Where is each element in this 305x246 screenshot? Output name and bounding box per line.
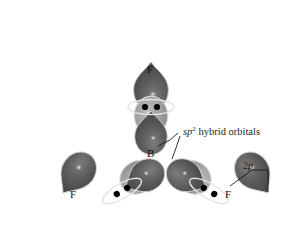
lobe-fluorine-right-outer [227,145,281,203]
callout-sp2-prefix: sp [183,126,192,137]
atom-label-boron: B [147,148,154,159]
electron-dot [210,190,218,198]
lobe-fluorine-left-outer [49,145,103,203]
electron-dot [113,190,121,198]
atom-label-fluorine-top: F [147,64,153,75]
electron-dot [142,104,148,110]
callout-sp2-suffix: hybrid orbitals [196,126,260,137]
atom-label-fluorine-right: F [225,189,231,200]
orbital-canvas [0,0,305,246]
orbital-diagram-figure: F B F F sp2 hybrid orbitals 2p [0,0,305,246]
callout-sp2-hybrid-orbitals: sp2 hybrid orbitals [183,127,260,138]
electron-dot [154,104,160,110]
callout-2p-orbital: 2p [243,161,253,171]
leader-line-sp2-lower [172,136,180,159]
callout-2p-letter: p [248,160,253,171]
atom-label-fluorine-left: F [70,189,76,200]
